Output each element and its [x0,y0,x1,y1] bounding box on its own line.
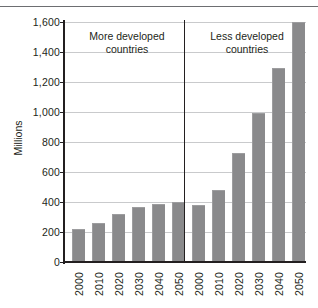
group-annotation-less-developed-line2: countries [192,43,302,56]
x-tick-less-developed-2040: 2040 [272,264,285,306]
x-tick-more-developed-2030: 2030 [132,264,145,306]
y-tick-label-1600: 1,600 [4,17,60,27]
bar-more-developed-2020[interactable] [112,214,125,262]
y-tick-label-400: 400 [4,197,60,207]
y-tick-label-1200: 1,200 [4,77,60,87]
x-axis-tick-labels: 2000 2010 2020 2030 2040 2050 2000 2010 … [64,264,306,308]
gridline-1200 [64,82,306,83]
group-annotation-less-developed-line1: Less developed [192,30,302,43]
bar-chart-figure: 1,600 1,400 1,200 1,000 800 600 400 200 … [0,0,318,308]
group-annotation-less-developed: Less developed countries [192,30,302,55]
gridline-800 [64,142,306,143]
x-tick-more-developed-2050: 2050 [172,264,185,306]
gridline-400 [64,202,306,203]
y-axis-tick-labels: 1,600 1,400 1,200 1,000 800 600 400 200 … [0,0,60,308]
bar-less-developed-2010[interactable] [212,190,225,262]
y-tick-label-1400: 1,400 [4,47,60,57]
bar-more-developed-2010[interactable] [92,223,105,262]
gridline-1600 [64,22,306,23]
x-tick-less-developed-2020: 2020 [232,264,245,306]
gridline-1000 [64,112,306,113]
group-divider [184,20,185,262]
bar-less-developed-2030[interactable] [252,113,265,262]
bar-less-developed-2050[interactable] [292,22,305,262]
y-tick-label-0: 0 [4,257,60,267]
x-tick-more-developed-2000: 2000 [72,264,85,306]
group-annotation-more-developed-line2: countries [70,43,184,56]
x-tick-less-developed-2030: 2030 [252,264,265,306]
x-tick-less-developed-2000: 2000 [192,264,205,306]
group-annotation-more-developed-line1: More developed [70,30,184,43]
plot-area: More developed countries Less developed … [64,22,306,262]
bar-more-developed-2040[interactable] [152,204,165,263]
x-tick-more-developed-2040: 2040 [152,264,165,306]
x-tick-more-developed-2010: 2010 [92,264,105,306]
bar-less-developed-2040[interactable] [272,68,285,262]
x-tick-more-developed-2020: 2020 [112,264,125,306]
y-tick-label-200: 200 [4,227,60,237]
gridline-600 [64,172,306,173]
bar-more-developed-2030[interactable] [132,207,145,263]
bar-more-developed-2000[interactable] [72,229,85,262]
bar-less-developed-2020[interactable] [232,153,245,262]
y-axis-line [63,20,65,264]
x-tick-less-developed-2050: 2050 [292,264,305,306]
x-tick-less-developed-2010: 2010 [212,264,225,306]
y-axis-title: Millions [12,98,24,178]
group-annotation-more-developed: More developed countries [70,30,184,55]
bar-less-developed-2000[interactable] [192,205,205,262]
